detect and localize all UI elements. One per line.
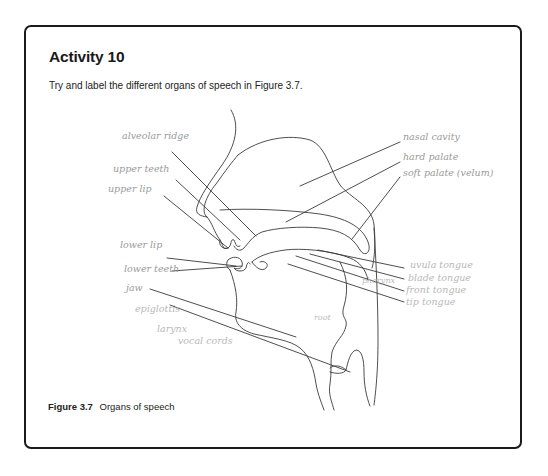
figure-caption-text: Organs of speech (100, 401, 175, 412)
figure-caption: Figure 3.7 Organs of speech (48, 401, 175, 412)
figure-label: Figure 3.7 (48, 401, 93, 412)
activity-instruction: Try and label the different organs of sp… (49, 80, 303, 91)
activity-title: Activity 10 (49, 48, 124, 66)
